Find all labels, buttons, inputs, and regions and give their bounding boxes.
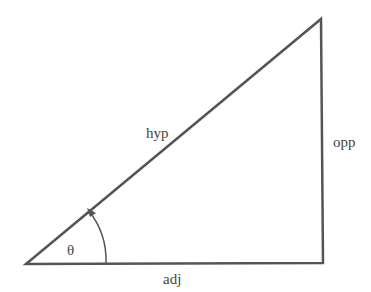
right-triangle: [26, 19, 323, 264]
hypotenuse-label: hyp: [146, 126, 169, 141]
angle-theta-label: θ: [67, 243, 74, 258]
opposite-label: opp: [333, 135, 356, 150]
triangle-diagram: [0, 0, 371, 292]
adjacent-label: adj: [163, 272, 181, 287]
angle-arc: [89, 211, 106, 263]
